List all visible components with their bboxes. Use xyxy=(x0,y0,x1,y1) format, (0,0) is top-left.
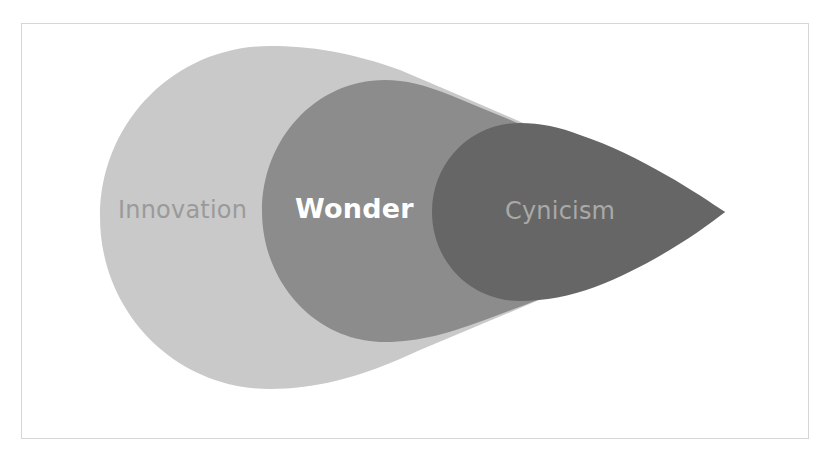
teardrop-diagram xyxy=(0,0,830,461)
label-innovation: Innovation xyxy=(118,198,247,222)
label-wonder: Wonder xyxy=(295,195,414,222)
label-cynicism: Cynicism xyxy=(505,199,615,223)
